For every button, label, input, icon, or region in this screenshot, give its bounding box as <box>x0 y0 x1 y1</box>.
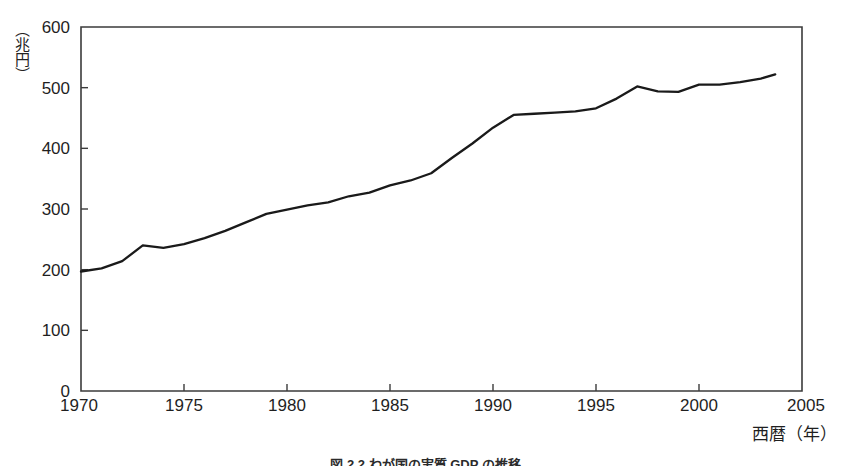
x-tick-label: 1985 <box>371 396 409 415</box>
y-tick-label: 500 <box>42 79 70 98</box>
x-tick-label: 2005 <box>787 396 825 415</box>
y-tick-label: 100 <box>42 321 70 340</box>
x-tick-label: 1970 <box>60 396 98 415</box>
x-tick-label: 1995 <box>577 396 615 415</box>
x-tick-label: 1975 <box>165 396 203 415</box>
x-tick-label: 1990 <box>474 396 512 415</box>
x-axis-label: 西暦（年） <box>752 420 837 445</box>
y-tick-label: 600 <box>42 18 70 37</box>
figure-container: （兆円） 0100200300400500600 197019751980198… <box>0 0 851 466</box>
x-tick-label: 2000 <box>680 396 718 415</box>
x-tick-label: 1980 <box>268 396 306 415</box>
gdp-series-line <box>81 74 775 271</box>
y-tick-label: 200 <box>42 261 70 280</box>
y-tick-label: 300 <box>42 200 70 219</box>
plot-frame <box>81 27 802 391</box>
y-tick-label: 400 <box>42 139 70 158</box>
x-axis-tick-group: 19701975198019851990199520002005 <box>60 384 825 415</box>
line-chart-plot: 0100200300400500600 19701975198019851990… <box>0 0 851 466</box>
figure-caption: 図 2.2 わが国の実質 GDP の推移 <box>0 455 851 466</box>
